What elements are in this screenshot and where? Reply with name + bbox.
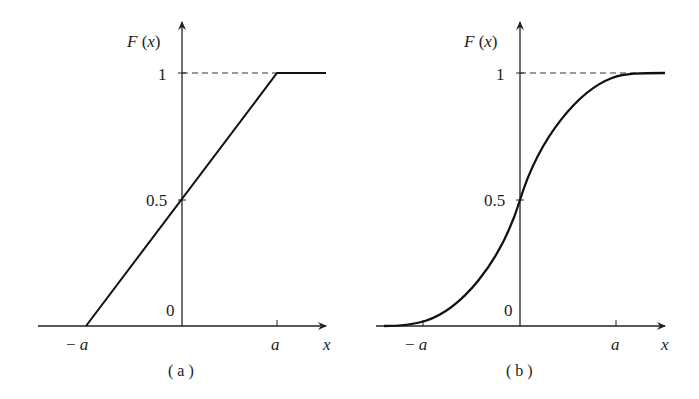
y-tick-label-zero: 0 [166,301,175,320]
cdf-line-uniform [86,73,326,326]
x-tick-label-neg-a: − a [66,335,88,354]
y-axis-label: F (x) [126,32,161,51]
y-axis-label: F (x) [463,32,498,51]
panel-caption-a: ( a ) [168,362,194,380]
x-tick-label-pos-a: a [271,335,280,354]
x-axis-label: x [660,335,669,354]
panel-a: F (x) 1 0.5 0 − a a x ( a ) [38,22,331,380]
panel-caption-b: ( b ) [506,362,533,380]
y-tick-label-zero: 0 [504,301,513,320]
x-axis-label: x [322,335,331,354]
panel-b: F (x) 1 0.5 0 − a a x ( b ) [376,22,669,380]
y-tick-label-half: 0.5 [484,191,505,210]
x-tick-label-pos-a: a [611,335,620,354]
cdf-curve-smooth [384,73,665,326]
y-tick-label-one: 1 [158,65,167,84]
y-tick-label-one: 1 [496,65,505,84]
y-tick-label-half: 0.5 [146,191,167,210]
figure: F (x) 1 0.5 0 − a a x ( a ) F (x) 1 0.5 … [0,0,699,399]
x-tick-label-neg-a: − a [405,335,427,354]
